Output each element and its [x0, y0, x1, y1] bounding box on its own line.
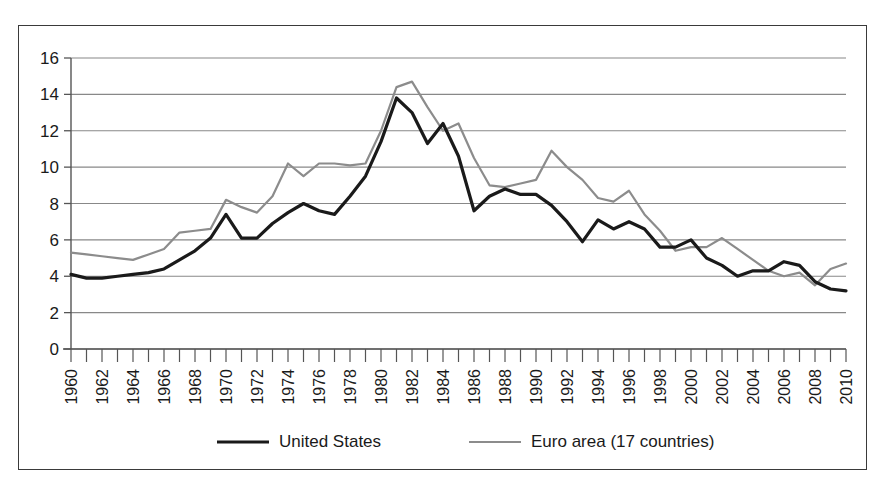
- chart-figure: 0246810121416196019621964196619681970197…: [18, 25, 867, 470]
- y-tick-label: 12: [40, 122, 59, 141]
- x-tick-label: 2004: [745, 369, 762, 405]
- y-tick-label: 14: [40, 85, 59, 104]
- x-tick-label: 1962: [94, 369, 111, 405]
- x-tick-label: 2006: [776, 369, 793, 405]
- x-tick-label: 1964: [125, 369, 142, 405]
- y-tick-label: 2: [50, 304, 59, 323]
- x-tick-label: 2002: [714, 369, 731, 405]
- x-tick-label: 1990: [528, 369, 545, 405]
- x-tick-label: 1966: [156, 369, 173, 405]
- y-tick-label: 0: [50, 340, 59, 359]
- x-tick-label: 1982: [404, 369, 421, 405]
- x-tick-label: 1968: [187, 369, 204, 405]
- series-line: [71, 98, 846, 291]
- x-tick-label: 1986: [466, 369, 483, 405]
- x-tick-label: 1972: [249, 369, 266, 405]
- series-group: [71, 82, 846, 291]
- x-axis-tick-labels: 1960196219641966196819701972197419761978…: [63, 369, 855, 405]
- legend: United StatesEuro area (17 countries): [217, 432, 714, 451]
- legend-label: Euro area (17 countries): [531, 432, 714, 451]
- x-tick-label: 1994: [590, 369, 607, 405]
- x-tick-label: 1970: [218, 369, 235, 405]
- y-tick-label: 4: [50, 267, 59, 286]
- x-tick-label: 1976: [311, 369, 328, 405]
- x-tick-label: 1974: [280, 369, 297, 405]
- x-tick-label: 1960: [63, 369, 80, 405]
- x-tick-label: 2010: [838, 369, 855, 405]
- x-tick-label: 1980: [373, 369, 390, 405]
- x-axis-ticks: [71, 349, 846, 362]
- x-tick-label: 1998: [652, 369, 669, 405]
- y-tick-label: 10: [40, 158, 59, 177]
- gridlines: [64, 58, 846, 349]
- line-chart: 0246810121416196019621964196619681970197…: [19, 26, 868, 471]
- x-tick-label: 2008: [807, 369, 824, 405]
- y-tick-label: 6: [50, 231, 59, 250]
- x-tick-label: 2000: [683, 369, 700, 405]
- x-tick-label: 1978: [342, 369, 359, 405]
- x-tick-label: 1996: [621, 369, 638, 405]
- y-tick-label: 8: [50, 195, 59, 214]
- x-tick-label: 1988: [497, 369, 514, 405]
- y-tick-label: 16: [40, 49, 59, 68]
- y-axis-tick-labels: 0246810121416: [40, 49, 59, 359]
- legend-label: United States: [279, 432, 381, 451]
- x-tick-label: 1992: [559, 369, 576, 405]
- x-tick-label: 1984: [435, 369, 452, 405]
